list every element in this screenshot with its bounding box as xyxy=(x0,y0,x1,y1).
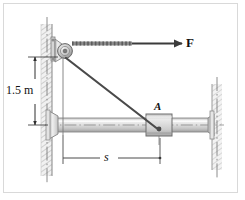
mechanics-diagram xyxy=(0,0,245,200)
rod-right-mount-flange xyxy=(208,111,214,139)
height-dimension-label: 1.5 m xyxy=(6,84,33,96)
figure-root: F 1.5 m s A xyxy=(0,0,245,200)
point-a-label: A xyxy=(154,101,161,112)
pulley-wheel xyxy=(58,44,73,59)
sliding-collar-a xyxy=(146,114,172,136)
distance-dimension-label: s xyxy=(104,151,109,163)
distance-dimension xyxy=(63,135,160,164)
force-label: F xyxy=(186,36,194,49)
left-wall-support xyxy=(41,24,52,176)
